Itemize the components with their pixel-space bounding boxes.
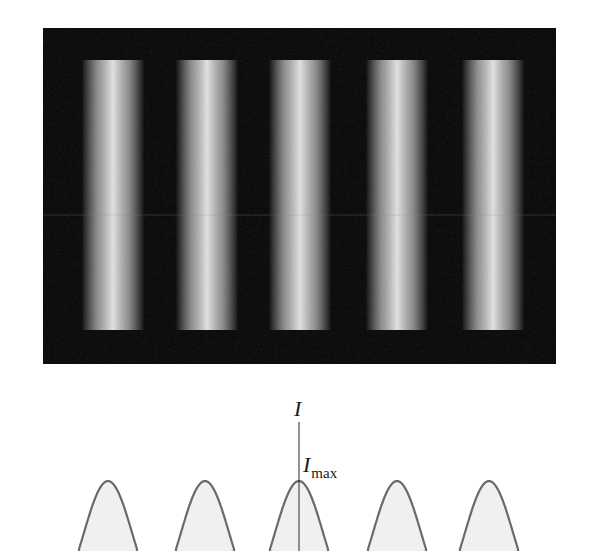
fringe-band-4 [366, 60, 428, 330]
peak-label-imax: Imax [303, 452, 337, 478]
imax-main: I [303, 452, 310, 477]
imax-subscript: max [311, 465, 337, 481]
fringe-band-5 [462, 60, 524, 330]
intensity-graph: I Imax [0, 380, 598, 551]
fringe-pattern [43, 28, 556, 364]
axis-label-intensity: I [294, 396, 301, 422]
interference-fringe-photo [43, 28, 556, 364]
fringe-band-2 [176, 60, 238, 330]
fringe-band-1 [82, 60, 144, 330]
fringe-band-3 [269, 60, 331, 330]
